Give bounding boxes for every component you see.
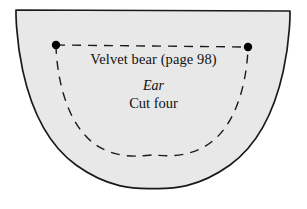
pattern-figure: Velvet bear (page 98) Ear Cut four (0, 0, 307, 209)
pattern-piece-outline (16, 10, 290, 189)
right-dot-marker (244, 43, 252, 51)
pattern-drawing (0, 0, 307, 209)
left-dot-marker (52, 41, 60, 49)
